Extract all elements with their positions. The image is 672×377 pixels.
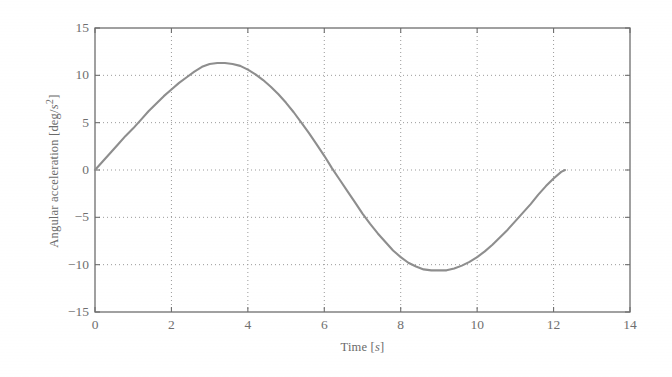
data-line-angular-acceleration	[95, 63, 565, 270]
plot-area	[0, 0, 672, 377]
figure-canvas: Angular acceleration [deg/s2] Time [s] −…	[0, 0, 672, 377]
data-series-layer	[95, 63, 565, 270]
gridlines	[95, 28, 630, 312]
